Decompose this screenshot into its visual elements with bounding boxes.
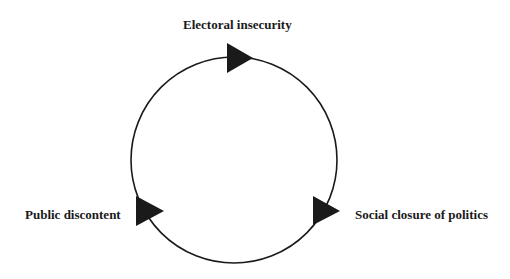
cycle-circle [131, 57, 337, 263]
node-label-electoral-insecurity: Electoral insecurity [183, 18, 292, 31]
node-label-public-discontent: Public discontent [25, 208, 121, 221]
cycle-diagram: Electoral insecurity Social closure of p… [0, 0, 510, 279]
arrowhead-right-icon [313, 196, 340, 225]
arrowhead-top-icon [227, 43, 253, 73]
arrowhead-left-icon [136, 196, 164, 226]
cycle-diagram-graphic [0, 0, 510, 279]
node-label-social-closure: Social closure of politics [355, 208, 488, 221]
